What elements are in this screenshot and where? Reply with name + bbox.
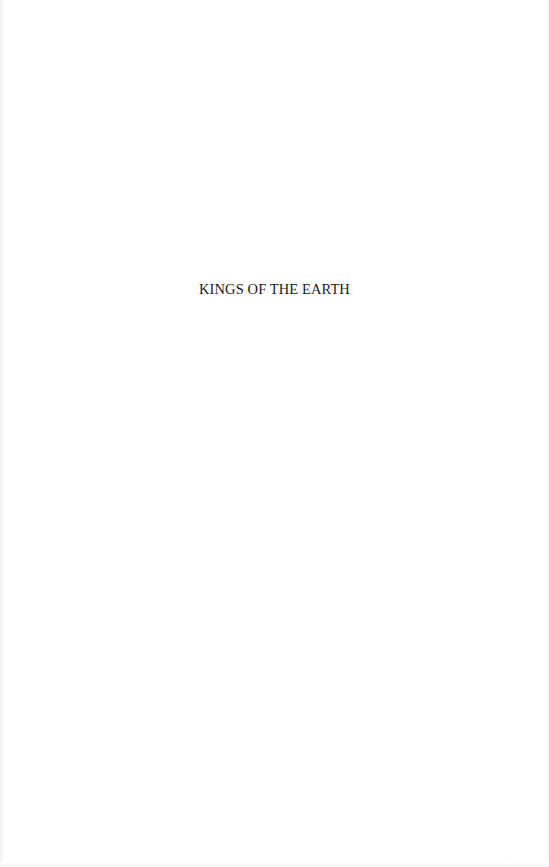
page-edge-shadow-right bbox=[545, 0, 549, 867]
half-title: KINGS OF THE EARTH bbox=[0, 280, 549, 298]
page-edge-shadow-bottom bbox=[0, 862, 549, 867]
page-edge-shadow-left bbox=[0, 0, 6, 867]
book-page: KINGS OF THE EARTH bbox=[0, 0, 549, 867]
